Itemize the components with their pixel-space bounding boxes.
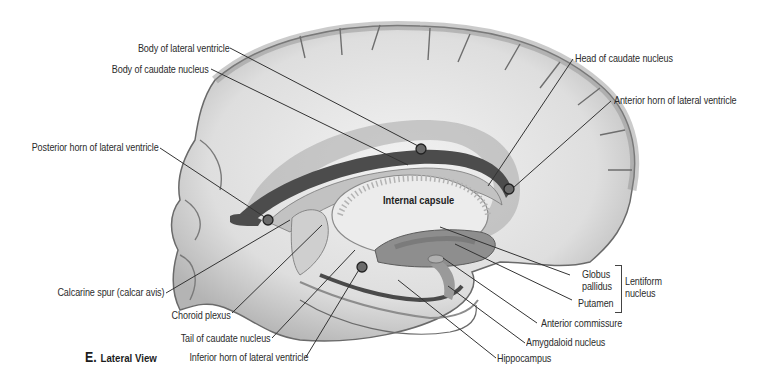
- label-tail-caudate: Tail of caudate nucleus: [181, 332, 271, 344]
- label-pallidus: pallidus: [582, 280, 612, 292]
- label-anterior-horn: Anterior horn of lateral ventricle: [614, 94, 737, 106]
- label-body-lateral-ventricle: Body of lateral ventricle: [138, 42, 230, 54]
- caption-letter: E.: [85, 349, 97, 365]
- lentiform-bracket: [615, 265, 622, 313]
- label-lentiform-1: Lentiform: [625, 275, 662, 287]
- label-choroid-plexus: Choroid plexus: [172, 309, 231, 321]
- label-internal-capsule: Internal capsule: [383, 194, 454, 206]
- label-anterior-commissure: Anterior commissure: [541, 317, 622, 329]
- label-body-caudate-nucleus: Body of caudate nucleus: [112, 63, 209, 75]
- label-head-caudate: Head of caudate nucleus: [575, 52, 673, 64]
- caption-text: Lateral View: [101, 352, 157, 364]
- label-calcarine-spur: Calcarine spur (calcar avis): [57, 286, 164, 298]
- label-lentiform-2: nucleus: [625, 287, 656, 299]
- figure-caption: E. Lateral View: [85, 348, 157, 366]
- label-putamen: Putamen: [578, 297, 614, 309]
- label-hippocampus: Hippocampus: [497, 352, 551, 364]
- label-amygdaloid: Amygdaloid nucleus: [526, 336, 605, 348]
- label-posterior-horn: Posterior horn of lateral ventricle: [32, 141, 159, 153]
- label-globus: Globus: [582, 268, 610, 280]
- label-inferior-horn: Inferior horn of lateral ventricle: [189, 351, 308, 363]
